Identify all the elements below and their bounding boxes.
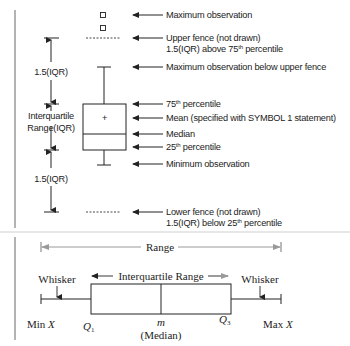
label-25th-percentile: 25th percentile	[166, 142, 221, 152]
label-minimum-observation: Minimum observation	[166, 159, 250, 169]
annotation-arrows	[133, 15, 163, 212]
label-maximum-observation: Maximum observation	[166, 10, 252, 20]
lower-span-label: 1.5(IQR)	[34, 174, 68, 184]
label-upper-fence: Upper fence (not drawn)	[166, 33, 261, 43]
q1-label: Q1	[83, 320, 95, 334]
boxplot-diagram: + 1.5(IQR) Interquartile Range(IQR) 1.5(…	[0, 0, 350, 346]
mean-plus-icon: +	[102, 113, 107, 123]
max-x-label: Max X	[263, 318, 294, 330]
label-75th-percentile: 75th percentile	[166, 99, 221, 109]
label-median: Median	[166, 129, 195, 139]
iqr-box	[83, 104, 126, 150]
outlier-square-icon	[101, 13, 106, 18]
iqr-label-line2: Range(IQR)	[27, 123, 75, 133]
median-symbol: m	[157, 316, 165, 328]
whisker-right-label: Whisker	[241, 273, 279, 285]
median-label: (Median)	[141, 329, 182, 342]
outlier-square-icon	[101, 26, 106, 31]
upper-span-label: 1.5(IQR)	[34, 67, 68, 77]
iqr-range-label: Interquartile Range	[118, 270, 203, 282]
top-diagram: + 1.5(IQR) Interquartile Range(IQR) 1.5(…	[15, 10, 336, 228]
min-x-label: Min X	[27, 318, 56, 330]
label-lower-fence: Lower fence (not drawn)	[166, 207, 261, 217]
whisker-left-label: Whisker	[38, 273, 76, 285]
bottom-diagram: Range Interquartile Range Whisker Whiske…	[15, 237, 294, 342]
label-max-below-upper-fence: Maximum observation below upper fence	[166, 62, 326, 72]
label-lower-fence-detail: 1.5(IQR) below 25th percentile	[166, 218, 282, 228]
label-mean: Mean (specified with SYMBOL 1 statement)	[166, 113, 336, 123]
range-label: Range	[146, 241, 174, 253]
iqr-label-line1: Interquartile	[28, 111, 74, 121]
label-upper-fence-detail: 1.5(IQR) above 75th percentile	[166, 44, 283, 54]
q3-label: Q3	[219, 313, 231, 327]
